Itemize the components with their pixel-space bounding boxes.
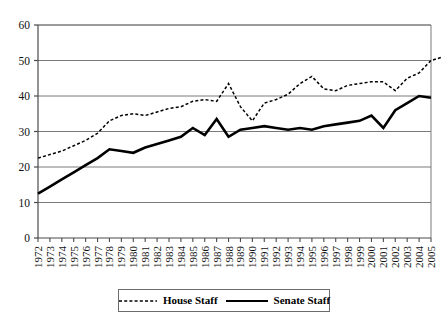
legend-label-house-staff: House Staff bbox=[163, 295, 218, 306]
x-axis-tick-label: 1991 bbox=[258, 246, 270, 268]
x-axis-tick-label: 1989 bbox=[234, 246, 246, 269]
x-axis-tick-label: 1995 bbox=[306, 246, 318, 269]
x-axis-tick-label: 1979 bbox=[115, 246, 127, 269]
x-axis-tick-label: 1997 bbox=[330, 246, 342, 269]
y-axis-tick-label: 50 bbox=[19, 55, 31, 67]
x-axis-tick-label: 1986 bbox=[199, 246, 211, 269]
x-axis-tick-label: 1976 bbox=[80, 246, 92, 269]
x-axis-tick-label: 1981 bbox=[139, 246, 151, 268]
x-axis-tick-label: 2000 bbox=[365, 246, 377, 269]
chart-canvas: 0102030405060197219731974197519761977197… bbox=[0, 0, 443, 318]
x-axis-tick-label: 1994 bbox=[294, 246, 306, 269]
x-axis-tick-label: 2005 bbox=[425, 246, 437, 269]
y-axis-tick-label: 60 bbox=[19, 19, 31, 31]
x-axis-tick-label: 1980 bbox=[127, 246, 139, 269]
x-axis-tick-label: 1974 bbox=[56, 246, 68, 269]
x-axis-tick-label: 1996 bbox=[318, 246, 330, 269]
x-axis-tick-label: 1988 bbox=[223, 246, 235, 269]
line-chart: 0102030405060197219731974197519761977197… bbox=[0, 0, 443, 318]
x-axis-tick-label: 1998 bbox=[342, 246, 354, 269]
x-axis-tick-label: 1999 bbox=[354, 246, 366, 269]
x-axis-tick-label: 2004 bbox=[413, 246, 425, 269]
x-axis-tick-label: 1982 bbox=[151, 246, 163, 268]
x-axis-tick-label: 1985 bbox=[187, 246, 199, 269]
x-axis-tick-label: 2001 bbox=[377, 246, 389, 268]
legend-entry-senate-staff: Senate Staff bbox=[225, 295, 331, 306]
x-axis-tick-label: 1993 bbox=[282, 246, 294, 269]
x-axis-tick-label: 1977 bbox=[92, 246, 104, 269]
solid-line-swatch bbox=[225, 297, 269, 305]
x-axis-tick-label: 1990 bbox=[246, 246, 258, 269]
x-axis-tick-label: 1983 bbox=[163, 246, 175, 269]
series-line-senate-staff bbox=[38, 96, 431, 194]
legend-label-senate-staff: Senate Staff bbox=[274, 295, 331, 306]
x-axis-tick-label: 1972 bbox=[32, 246, 44, 268]
x-axis-tick-label: 1973 bbox=[44, 246, 56, 269]
x-axis-tick-label: 1987 bbox=[211, 246, 223, 269]
dashed-line-swatch bbox=[118, 297, 158, 305]
x-axis-tick-label: 1978 bbox=[103, 246, 115, 269]
x-axis-tick-label: 1992 bbox=[270, 246, 282, 268]
legend-entry-house-staff: House Staff bbox=[118, 295, 218, 306]
y-axis-tick-label: 0 bbox=[24, 232, 30, 244]
y-axis-tick-label: 40 bbox=[19, 90, 31, 102]
series-line-house-staff bbox=[38, 57, 443, 158]
x-axis-tick-label: 2003 bbox=[401, 246, 413, 269]
y-axis-tick-label: 10 bbox=[19, 197, 31, 209]
x-axis-tick-label: 1975 bbox=[68, 246, 80, 269]
chart-legend: House Staff Senate Staff bbox=[118, 289, 330, 312]
x-axis-tick-label: 2002 bbox=[389, 246, 401, 268]
y-axis-tick-label: 20 bbox=[19, 161, 31, 173]
x-axis-tick-label: 1984 bbox=[175, 246, 187, 269]
y-axis-tick-label: 30 bbox=[19, 126, 31, 138]
